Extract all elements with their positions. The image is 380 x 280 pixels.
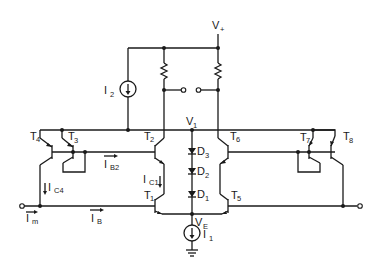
- svg-text:1: 1: [193, 121, 197, 130]
- svg-text:+: +: [220, 25, 225, 34]
- label-t3: T 3: [68, 130, 78, 145]
- label-v1: V 1: [186, 115, 197, 130]
- svg-text:I: I: [26, 212, 29, 224]
- svg-text:m: m: [32, 217, 38, 226]
- label-im: I m: [26, 210, 38, 226]
- label-ib2: I B2: [104, 154, 119, 172]
- svg-text:I: I: [91, 212, 94, 224]
- svg-text:D: D: [197, 165, 205, 177]
- svg-text:B2: B2: [110, 163, 119, 172]
- diode-d1: [188, 191, 196, 197]
- resistor-left: [161, 48, 167, 130]
- label-t8: T 8: [343, 130, 353, 145]
- circuit-schematic: V + I 2 V 1: [0, 0, 380, 280]
- svg-text:5: 5: [237, 194, 241, 203]
- v1-bus: [40, 128, 335, 132]
- transistor-t8: [313, 130, 343, 206]
- resistor-right: [215, 48, 221, 130]
- label-ic4: I C4: [43, 181, 64, 195]
- diode-d2: [188, 168, 196, 174]
- svg-text:D: D: [197, 145, 205, 157]
- svg-text:2: 2: [110, 90, 114, 99]
- label-t5: T 5: [231, 189, 241, 203]
- ground-icon: [186, 250, 198, 256]
- svg-text:8: 8: [349, 136, 353, 145]
- svg-text:1: 1: [205, 194, 209, 203]
- svg-text:I: I: [143, 173, 146, 185]
- label-ib: I B: [90, 208, 104, 226]
- svg-text:V: V: [212, 19, 220, 31]
- transistor-t4: [40, 130, 52, 206]
- svg-text:1: 1: [209, 234, 213, 243]
- input-terminal[interactable]: [20, 204, 25, 209]
- svg-text:C1: C1: [149, 178, 159, 187]
- svg-text:I: I: [104, 158, 107, 170]
- current-source-i2: [120, 48, 136, 132]
- label-t2: T 2: [144, 130, 154, 144]
- svg-text:4: 4: [36, 135, 40, 144]
- diode-string: [188, 130, 196, 216]
- svg-text:B: B: [97, 217, 102, 226]
- svg-text:6: 6: [236, 135, 240, 144]
- label-t6: T 6: [230, 130, 240, 144]
- supply-label: V +: [212, 19, 225, 34]
- output-switch-left[interactable]: [181, 88, 186, 93]
- svg-text:3: 3: [74, 136, 78, 145]
- output-bus-right: [228, 204, 362, 209]
- output-terminals: [164, 88, 218, 93]
- svg-text:I: I: [48, 181, 51, 193]
- svg-text:7: 7: [306, 136, 310, 145]
- label-ve: V E: [195, 216, 208, 231]
- supply-rail: [128, 34, 220, 50]
- diode-d3: [188, 148, 196, 154]
- label-d3: D 3: [197, 145, 209, 160]
- label-i2: I 2: [104, 84, 114, 99]
- svg-text:3: 3: [205, 151, 209, 160]
- transistor-t5: [220, 194, 228, 214]
- label-i1: I 1: [203, 228, 213, 243]
- svg-text:D: D: [197, 188, 205, 200]
- label-d2: D 2: [197, 165, 209, 180]
- svg-text:C4: C4: [54, 186, 64, 195]
- label-t7: T 7: [300, 131, 310, 145]
- label-t4: T 4: [30, 130, 40, 144]
- output-terminal-right[interactable]: [358, 204, 363, 209]
- svg-text:2: 2: [150, 135, 154, 144]
- input-bus: [20, 204, 155, 209]
- output-switch-right[interactable]: [196, 88, 201, 93]
- svg-text:I: I: [203, 228, 206, 240]
- svg-text:I: I: [104, 84, 107, 96]
- label-t1: T 1: [144, 189, 154, 203]
- svg-text:1: 1: [150, 194, 154, 203]
- transistor-t6: [218, 130, 228, 194]
- label-d1: D 1: [197, 188, 209, 203]
- label-ic1: I C1: [143, 173, 162, 188]
- svg-text:2: 2: [205, 171, 209, 180]
